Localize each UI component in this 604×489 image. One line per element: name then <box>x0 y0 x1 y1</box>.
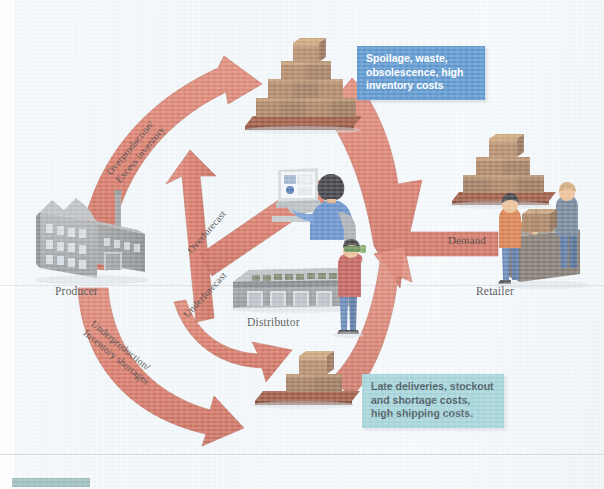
node-label-distributor: Distributor <box>247 316 300 328</box>
scanned-page: Producer Distributor Retailer Overproduc… <box>0 0 604 489</box>
callout-stockout-shipping-costs: Late deliveries, stockout and shortage c… <box>362 374 504 428</box>
stack-excess-top <box>245 38 362 134</box>
callout-excess-inventory-costs: Spoilage, waste, obsolescence, high inve… <box>357 46 485 100</box>
node-label-producer: Producer <box>55 285 98 297</box>
node-label-retailer: Retailer <box>476 285 514 297</box>
stack-retailer <box>448 134 556 209</box>
warehouse-icon <box>230 268 354 313</box>
arrow-underproduction <box>78 288 244 446</box>
supply-chain-diagram <box>0 0 604 489</box>
arrow-label-demand: Demand <box>448 235 486 247</box>
